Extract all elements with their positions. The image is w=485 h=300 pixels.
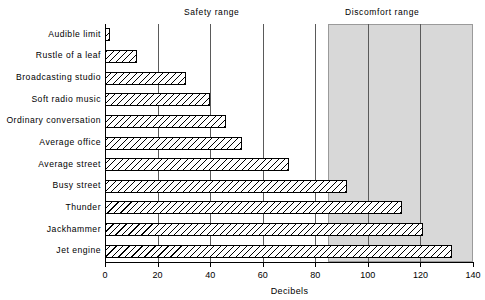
discomfort-range-annotation-label: Discomfort range: [345, 7, 419, 17]
y-axis-category-label: Average office: [0, 137, 101, 147]
x-tick-mark-120: [420, 262, 421, 267]
safety-range-annotation-label: Safety range: [184, 7, 239, 17]
bar: [105, 72, 186, 85]
y-axis-category-label: Audible limit: [0, 29, 101, 39]
bar: [105, 28, 110, 41]
y-axis-category-label: Jackhammer: [0, 224, 101, 234]
x-tick-label-20: 20: [153, 270, 163, 280]
x-tick-label-120: 120: [413, 270, 428, 280]
bar: [105, 201, 402, 214]
plot-area: 020406080100120140 Audible limitRustle o…: [105, 24, 473, 262]
x-tick-label-40: 40: [205, 270, 215, 280]
y-axis-category-label: Soft radio music: [0, 94, 101, 104]
bar: [105, 223, 423, 236]
bar: [105, 115, 226, 128]
x-axis-title: Decibels: [105, 286, 474, 296]
x-tick-label-140: 140: [465, 270, 480, 280]
x-tick-mark-40: [210, 262, 211, 267]
x-tick-mark-20: [158, 262, 159, 267]
bar: [105, 180, 347, 193]
bar: [105, 50, 137, 63]
y-axis-category-label: Thunder: [0, 202, 101, 212]
x-tick-mark-80: [315, 262, 316, 267]
x-tick-label-0: 0: [102, 270, 107, 280]
decibel-bar-chart: Safety range Discomfort range 0204060801…: [0, 0, 485, 300]
y-axis-category-label: Ordinary conversation: [0, 115, 101, 125]
x-axis-spine: [105, 262, 474, 263]
x-tick-label-80: 80: [310, 270, 320, 280]
x-tick-mark-100: [368, 262, 369, 267]
x-tick-mark-60: [263, 262, 264, 267]
y-axis-category-label: Busy street: [0, 180, 101, 190]
y-axis-category-label: Rustle of a leaf: [0, 50, 101, 60]
bar: [105, 93, 210, 106]
x-tick-mark-140: [473, 262, 474, 267]
bar: [105, 245, 452, 258]
y-axis-category-label: Broadcasting studio: [0, 72, 101, 82]
x-tick-label-100: 100: [360, 270, 375, 280]
y-axis-category-label: Average street: [0, 159, 101, 169]
bar: [105, 158, 289, 171]
x-tick-label-60: 60: [258, 270, 268, 280]
bar: [105, 137, 242, 150]
y-axis-category-label: Jet engine: [0, 245, 101, 255]
x-tick-mark-0: [105, 262, 106, 267]
